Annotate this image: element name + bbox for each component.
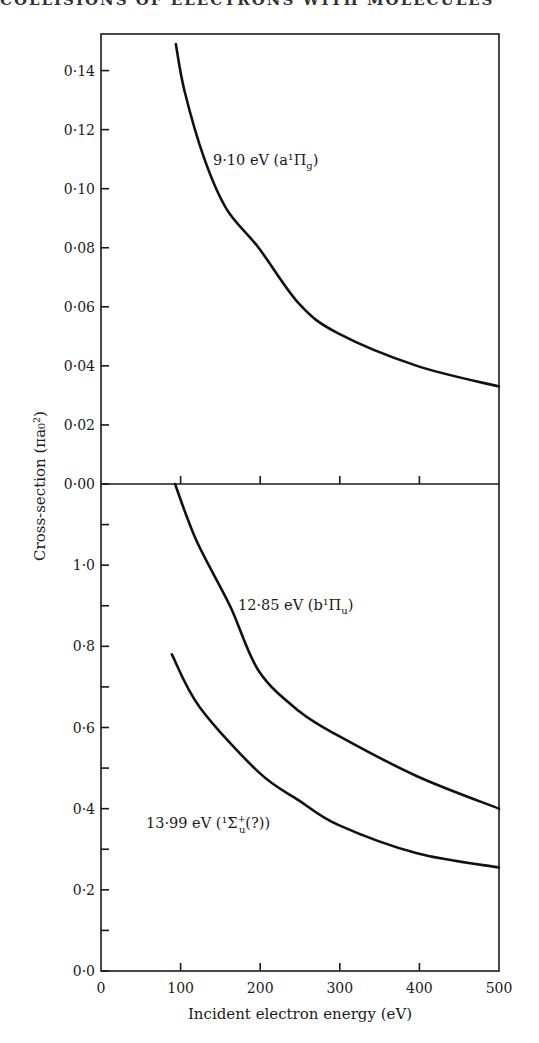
y-tick-label: 0·6 (73, 720, 95, 736)
y-tick-label: 0·2 (73, 882, 95, 898)
y-tick-label: 0·06 (64, 299, 95, 315)
y-tick-label: 0·02 (64, 417, 95, 433)
y-tick-label: 0·12 (64, 122, 95, 138)
label-12-85-ev: 12·85 eV (b¹Πu) (238, 597, 353, 616)
x-tick-label: 400 (406, 980, 433, 996)
curve-12-85-ev (175, 484, 499, 809)
curve-13-99-ev (172, 654, 499, 867)
y-tick-label: 0·00 (64, 476, 95, 492)
x-tick-label: 0 (97, 980, 106, 996)
y-tick-label: 0·14 (64, 63, 95, 79)
x-tick-label: 300 (326, 980, 353, 996)
lower-y-axis: 0·00·20·40·60·81·0 (73, 525, 109, 979)
curve-9-10-ev (176, 44, 499, 387)
cross-section-chart: 0·000·020·040·060·080·100·120·14 0·00·20… (0, 0, 539, 1043)
x-tick-label: 100 (167, 980, 194, 996)
y-tick-label: 0·8 (73, 638, 95, 654)
y-tick-label: 0·4 (73, 801, 95, 817)
y-tick-label: 0·10 (64, 181, 95, 197)
y-tick-label: 0·04 (64, 358, 95, 374)
x-tick-label: 500 (486, 980, 513, 996)
y-tick-label: 0·0 (73, 963, 95, 979)
y-tick-label: 0·08 (64, 240, 95, 256)
label-13-99-ev: 13·99 eV (¹Σ+u(?)) (146, 813, 270, 835)
label-9-10-ev: 9·10 eV (a¹Πg) (213, 152, 318, 171)
x-axis: 0100200300400500 (97, 476, 513, 996)
y-axis-title: Cross-section (πa₀²) (31, 411, 49, 561)
x-axis-title: Incident electron energy (eV) (188, 1005, 412, 1023)
x-tick-label: 200 (247, 980, 274, 996)
upper-y-axis: 0·000·020·040·060·080·100·120·14 (64, 63, 109, 492)
y-tick-label: 1·0 (73, 557, 95, 573)
